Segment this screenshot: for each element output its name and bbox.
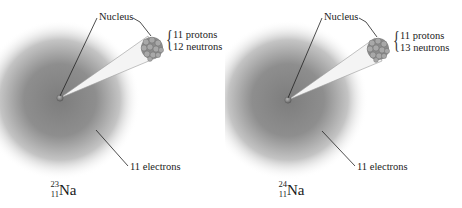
nucleus-label: Nucleus [99, 11, 133, 22]
electrons-label: 11 electrons [130, 161, 181, 172]
protons-label: 11 protons [173, 29, 217, 40]
protons-label: 11 protons [400, 30, 444, 41]
atom-panel-na24: Nucleus { 11 protons 13 neutrons 11 elec… [225, 0, 456, 208]
nucleus-label: Nucleus [324, 11, 358, 22]
isotope-symbol: 23 11 Na [47, 183, 77, 198]
element-symbol: Na [59, 182, 77, 198]
atom-panel-na23: Nucleus { 11 protons 12 neutrons 11 elec… [0, 0, 231, 208]
isotope-symbol: 24 11 Na [275, 183, 305, 198]
electrons-label: 11 electrons [357, 161, 408, 172]
brace-icon: { [166, 27, 173, 51]
mass-number: 23 [51, 180, 60, 189]
neutrons-label: 13 neutrons [400, 42, 449, 53]
atomic-number: 11 [51, 190, 59, 199]
atomic-number: 11 [279, 190, 287, 199]
mass-number: 24 [279, 180, 288, 189]
neutrons-label: 12 neutrons [173, 41, 222, 52]
nucleus-leader-line-2 [133, 18, 151, 36]
electron-cloud [225, 20, 368, 180]
brace-icon: { [393, 28, 400, 52]
nucleus-leader-line-2 [359, 18, 377, 37]
element-symbol: Na [287, 182, 305, 198]
